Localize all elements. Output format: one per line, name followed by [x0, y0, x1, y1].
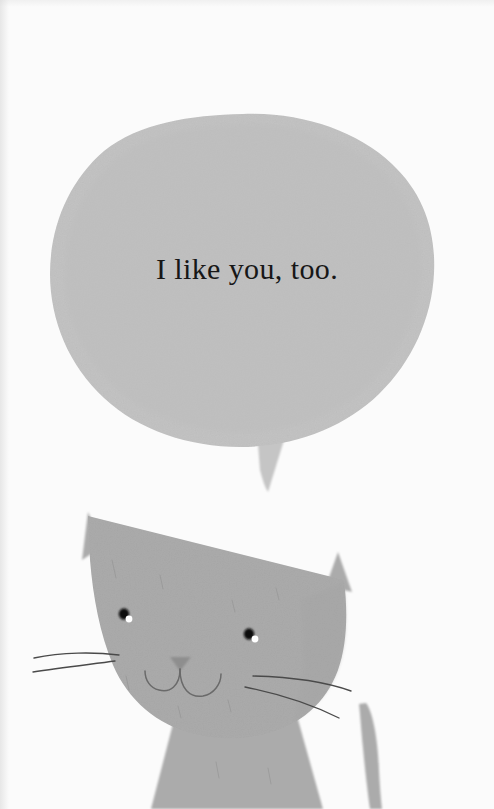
cat [33, 512, 382, 809]
whisker-left-lower [33, 661, 115, 672]
illustration-artwork [0, 0, 494, 809]
illustration-canvas: I like you, too. [0, 0, 494, 809]
cat-tail [359, 703, 382, 809]
right-eye-highlight [252, 636, 259, 643]
speech-bubble [50, 114, 434, 492]
left-eye-highlight [126, 616, 133, 623]
whisker-left-upper [34, 653, 119, 658]
